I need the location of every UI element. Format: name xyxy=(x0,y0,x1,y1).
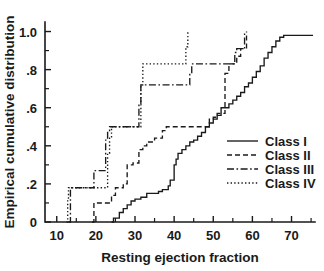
x-tick-label: 40 xyxy=(167,228,181,243)
x-tick-label: 20 xyxy=(89,228,103,243)
x-tick-label: 10 xyxy=(50,228,64,243)
ecdf-chart: 10203040506070 0.2.4.6.81.0 Resting ejec… xyxy=(0,0,324,271)
y-tick-label: .8 xyxy=(26,63,37,78)
legend-label-class-iii: Class III xyxy=(265,162,314,177)
x-tick-label: 50 xyxy=(206,228,220,243)
x-axis-ticks xyxy=(57,216,311,222)
y-axis-tick-labels: 0.2.4.6.81.0 xyxy=(19,25,38,230)
x-axis-title: Resting ejection fraction xyxy=(101,250,259,265)
y-tick-label: 0 xyxy=(30,215,37,230)
data-series-group xyxy=(67,32,314,222)
axis-lines xyxy=(45,22,315,222)
y-tick-label: 1.0 xyxy=(19,25,37,40)
y-axis-ticks xyxy=(45,32,51,222)
x-tick-label: 60 xyxy=(245,228,259,243)
x-tick-label: 70 xyxy=(284,228,298,243)
y-tick-label: .4 xyxy=(26,139,38,154)
chart-legend: Class IClass IIClass IIIClass IV xyxy=(227,134,316,191)
x-axis-tick-labels: 10203040506070 xyxy=(50,228,299,243)
x-tick-label: 30 xyxy=(128,228,142,243)
legend-label-class-ii: Class II xyxy=(265,148,311,163)
y-tick-label: .2 xyxy=(26,177,37,192)
chart-svg: 10203040506070 0.2.4.6.81.0 Resting ejec… xyxy=(0,0,324,271)
legend-label-class-i: Class I xyxy=(265,134,307,149)
plot-axes: 10203040506070 0.2.4.6.81.0 xyxy=(19,22,315,243)
y-axis-title: Empirical cumulative distribution xyxy=(2,15,17,228)
legend-label-class-iv: Class IV xyxy=(265,176,316,191)
y-tick-label: .6 xyxy=(26,101,37,116)
